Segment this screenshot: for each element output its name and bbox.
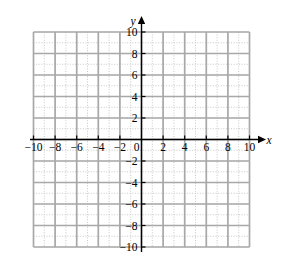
y-tick-label: 8 bbox=[132, 48, 138, 60]
y-tick-label: 10 bbox=[126, 26, 138, 38]
x-tick-label: −6 bbox=[71, 141, 83, 153]
y-tick-label: 4 bbox=[132, 91, 138, 103]
y-tick-label: 6 bbox=[132, 69, 138, 81]
coordinate-plane-figure: −10−8−6−4−20246810 108642−2−4−6−8−10 x y bbox=[0, 0, 282, 274]
x-tick-label: −4 bbox=[92, 141, 104, 153]
y-tick-label: 2 bbox=[132, 112, 138, 124]
origin-label: 0 bbox=[134, 141, 140, 153]
y-tick-label: −2 bbox=[125, 155, 137, 167]
x-tick-label: 8 bbox=[225, 141, 231, 153]
coordinate-plane-svg: −10−8−6−4−20246810 108642−2−4−6−8−10 x y bbox=[0, 0, 282, 274]
x-tick-label: 4 bbox=[182, 141, 188, 153]
y-axis-label: y bbox=[129, 15, 136, 28]
y-tick-label: −8 bbox=[125, 220, 137, 232]
x-tick-label: 2 bbox=[160, 141, 166, 153]
x-axis-label: x bbox=[265, 134, 272, 146]
y-tick-label: −6 bbox=[125, 198, 137, 210]
x-tick-label: 10 bbox=[244, 141, 256, 153]
y-tick-label: −4 bbox=[125, 177, 137, 189]
y-tick-label: −10 bbox=[120, 241, 138, 253]
x-tick-label: −10 bbox=[25, 141, 43, 153]
x-tick-label: −2 bbox=[114, 141, 126, 153]
x-tick-label: −8 bbox=[49, 141, 61, 153]
x-tick-label: 6 bbox=[203, 141, 209, 153]
